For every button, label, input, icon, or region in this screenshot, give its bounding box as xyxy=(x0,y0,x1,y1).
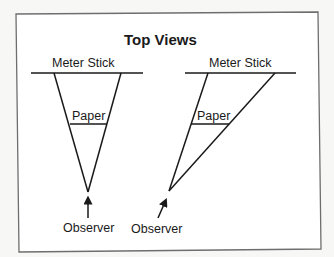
panel-border xyxy=(16,12,321,252)
left-meter-stick-label: Meter Stick xyxy=(52,56,115,70)
right-meter-stick-label: Meter Stick xyxy=(209,56,272,70)
diagram-title: Top Views xyxy=(124,31,197,48)
left-observer-label: Observer xyxy=(63,221,114,235)
right-paper-label: Paper xyxy=(197,109,230,123)
right-observer-label: Observer xyxy=(131,222,182,236)
left-paper-label: Paper xyxy=(72,109,105,123)
